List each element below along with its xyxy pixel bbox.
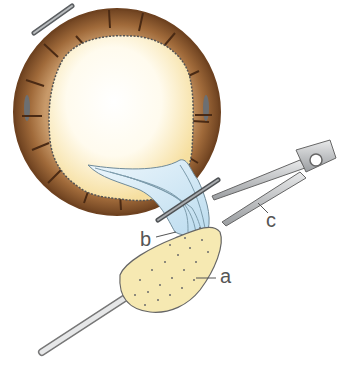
illustration: b a c (0, 0, 342, 379)
label-b: b (140, 229, 151, 249)
diagram-svg (0, 0, 342, 379)
label-a: a (220, 266, 231, 286)
sponge (120, 227, 221, 312)
sponge-stick (42, 296, 128, 352)
label-c: c (266, 210, 276, 230)
